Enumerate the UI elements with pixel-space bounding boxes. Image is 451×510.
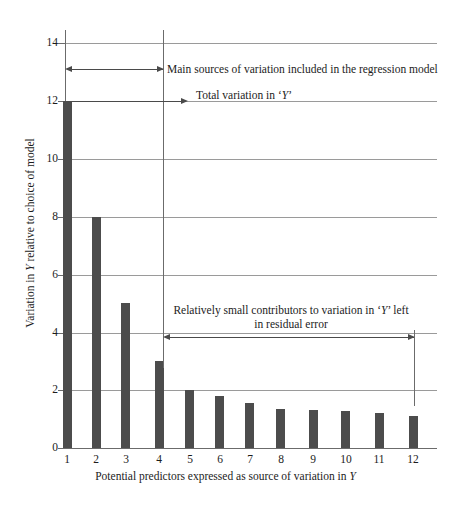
x-tick-label-4: 4 [144, 452, 174, 466]
x-tick-label-7: 7 [235, 452, 265, 466]
residual-line1-pre: Relatively small contributors to variati… [173, 304, 377, 316]
x-tick-label-8: 8 [266, 452, 296, 466]
main-sources-arrow-line [70, 69, 163, 70]
x-tick-label-1: 1 [52, 452, 82, 466]
bar-chart-figure: 14 12 10 8 6 4 2 0 1 2 3 4 5 6 7 8 [0, 0, 451, 510]
x-tick-label-6: 6 [205, 452, 235, 466]
gridline-10 [65, 159, 437, 160]
bar-2 [92, 217, 101, 448]
total-variation-arrow-head [181, 98, 188, 104]
x-tick-label-3: 3 [111, 452, 141, 466]
x-tick-label-9: 9 [298, 452, 328, 466]
bar-3 [121, 303, 130, 448]
bar-8 [276, 409, 285, 448]
residual-arrow-head-left [163, 334, 170, 340]
bar-6 [215, 396, 224, 448]
gridline-14 [65, 43, 437, 44]
x-tick-label-10: 10 [331, 452, 361, 466]
gridline-8 [65, 217, 437, 218]
bar-7 [245, 403, 254, 448]
x-axis-title: Potential predictors expressed as source… [0, 470, 451, 482]
x-axis-title-variable: Y [349, 470, 355, 482]
bar-5 [185, 390, 194, 448]
residual-line2: in residual error [254, 318, 327, 330]
bar-12 [409, 416, 418, 448]
x-tick-label-12: 12 [398, 452, 428, 466]
total-variation-arrow-line [67, 101, 185, 102]
x-axis-line [65, 448, 437, 449]
main-sources-arrow-head-right [157, 66, 164, 72]
divider-line-bar4 [163, 30, 164, 368]
y-axis-title-variable: Y [24, 264, 36, 270]
annotation-total-variation: Total variation in ‘Y’ [196, 88, 292, 102]
x-axis-title-pre: Potential predictors expressed as source… [95, 470, 349, 482]
bar-9 [309, 410, 318, 448]
bar-11 [375, 413, 384, 448]
y-tick-dash-0 [58, 448, 65, 449]
x-tick-label-2: 2 [81, 452, 111, 466]
main-sources-arrow-head-left [65, 66, 72, 72]
total-variation-pre: Total variation in [196, 89, 278, 101]
x-tick-label-11: 11 [364, 452, 394, 466]
y-axis-title: Variation in Y relative to choice of mod… [24, 23, 36, 443]
total-variation-quote-close: ’ [288, 89, 292, 101]
y-axis-title-pre: Variation in [24, 271, 36, 328]
x-tick-label-5: 5 [175, 452, 205, 466]
residual-arrow-line [168, 337, 414, 338]
y-axis-title-post: relative to choice of model [24, 138, 36, 264]
bracket-line-bar12 [414, 330, 415, 406]
bar-4 [155, 361, 164, 448]
residual-line1-post: ’ left [387, 304, 408, 316]
bar-1 [63, 101, 72, 448]
gridline-6 [65, 275, 437, 276]
bar-10 [341, 411, 350, 448]
annotation-main-sources: Main sources of variation included in th… [167, 62, 438, 76]
y-tick-dash-14 [58, 43, 65, 44]
annotation-residual-error: Relatively small contributors to variati… [166, 303, 416, 331]
